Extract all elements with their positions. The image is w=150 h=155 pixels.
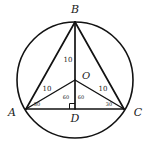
angle-label-ocd: 30 (106, 101, 112, 107)
geometry-canvas: B A C D O 10 10 10 60 60 30 30 (0, 0, 150, 155)
length-label-ao: 10 (43, 85, 52, 93)
length-label-oc: 10 (99, 85, 108, 93)
length-label-bo: 10 (64, 56, 73, 64)
angle-label-aod: 60 (63, 94, 69, 100)
center-label-o: O (82, 70, 90, 81)
vertex-label-c: C (134, 106, 143, 119)
vertex-label-b: B (70, 3, 79, 16)
angle-label-oad: 30 (34, 101, 40, 107)
angle-label-doc: 60 (78, 94, 84, 100)
vertex-label-d: D (70, 112, 80, 125)
geometry-figure: B A C D O 10 10 10 60 60 30 30 (0, 0, 150, 155)
vertex-label-a: A (7, 106, 16, 119)
